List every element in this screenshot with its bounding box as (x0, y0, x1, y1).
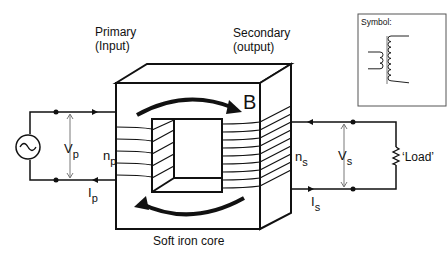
secondary-current-arrow-top (307, 119, 313, 125)
sine-wave-source-icon (16, 135, 40, 159)
svg-text:(output): (output) (233, 40, 274, 54)
vs-label: Vs (338, 148, 353, 167)
core-window (152, 119, 222, 192)
secondary-node-top (351, 120, 356, 125)
ip-label: Ip (88, 185, 98, 204)
primary-label: Primary (Input) (95, 25, 136, 53)
transformer-symbol-box: Symbol: (358, 14, 446, 106)
np-label: np (103, 148, 116, 167)
primary-current-arrow-top (92, 109, 98, 115)
secondary-node-bottom (351, 187, 356, 192)
primary-winding-back (152, 120, 174, 178)
flux-label: B (243, 91, 256, 113)
secondary-current-arrow-bottom (308, 186, 314, 192)
primary-node-top (54, 110, 59, 115)
svg-text:Symbol:: Symbol: (361, 17, 392, 27)
transformer-diagram: Primary (Input) Secondary (output) Symbo… (0, 0, 448, 260)
resistor-zigzag-icon (393, 147, 399, 165)
svg-text:Secondary: Secondary (233, 26, 290, 40)
vp-label: Vp (64, 141, 79, 160)
core-label: Soft iron core (153, 234, 225, 248)
svg-text:Primary: Primary (95, 25, 136, 39)
is-label: Is (311, 194, 321, 213)
svg-text:(Input): (Input) (95, 39, 130, 53)
ns-label: ns (295, 149, 308, 168)
primary-current-arrow-bottom (92, 177, 98, 183)
primary-circuit (30, 112, 116, 180)
load-label: ‘Load’ (402, 150, 434, 164)
secondary-label: Secondary (output) (233, 26, 290, 54)
primary-node-bottom (54, 178, 59, 183)
